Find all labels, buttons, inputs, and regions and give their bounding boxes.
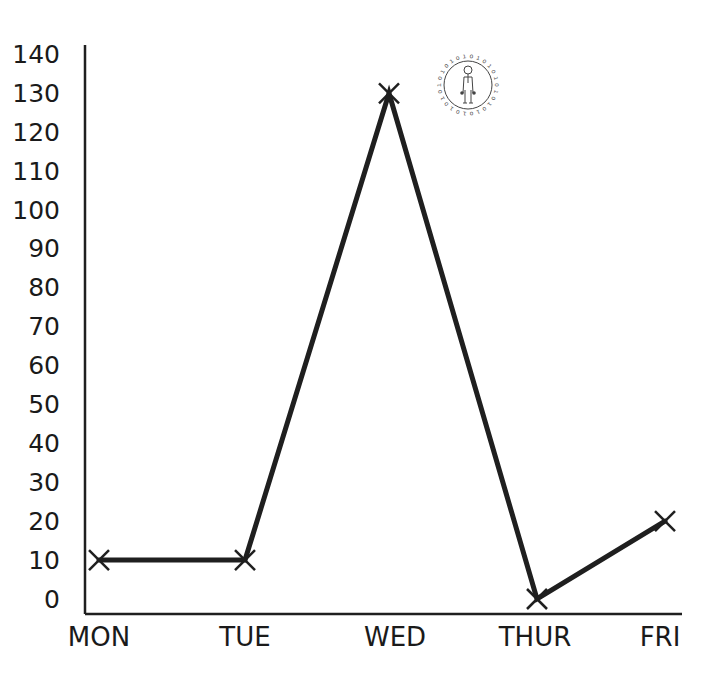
line-chart: 0102030405060708090100110120130140 MONTU…	[0, 0, 717, 691]
svg-text:o: o	[435, 75, 444, 81]
series-line	[99, 93, 665, 599]
svg-text:o: o	[493, 83, 501, 87]
svg-text:o: o	[435, 89, 444, 95]
x-tick-label: WED	[364, 622, 426, 652]
y-tick-label: 80	[28, 273, 60, 302]
svg-text:ı: ı	[475, 53, 482, 62]
svg-text:ı: ı	[475, 108, 482, 117]
y-tick-label: 0	[44, 585, 60, 614]
svg-text:o: o	[489, 68, 498, 75]
svg-text:o: o	[454, 108, 461, 117]
svg-text:o: o	[454, 53, 461, 62]
svg-text:o: o	[469, 52, 474, 60]
svg-text:o: o	[481, 104, 489, 113]
y-tick-label: 120	[12, 118, 60, 147]
svg-text:ı: ı	[435, 83, 443, 87]
svg-text:ı: ı	[492, 89, 501, 95]
svg-text:ı: ı	[462, 52, 467, 60]
svg-text:o: o	[469, 110, 474, 118]
y-tick-label: 130	[12, 79, 60, 108]
x-tick-label: FRI	[640, 622, 681, 652]
y-tick-label: 100	[12, 196, 60, 225]
x-tick-label: MON	[68, 622, 130, 652]
y-axis-labels: 0102030405060708090100110120130140	[12, 40, 60, 614]
x-tick-label: THUR	[498, 622, 572, 652]
y-tick-label: 40	[28, 429, 60, 458]
logo-ring-text: oıoıoıoıoıoıoıoıoıoıoıoıoı	[435, 52, 501, 118]
y-tick-label: 10	[28, 546, 60, 575]
y-tick-label: 140	[12, 40, 60, 69]
svg-text:ı: ı	[462, 110, 467, 118]
y-tick-label: 60	[28, 351, 60, 380]
y-tick-label: 110	[12, 157, 60, 186]
y-tick-label: 70	[28, 312, 60, 341]
x-tick-label: TUE	[218, 622, 270, 652]
svg-text:ı: ı	[492, 75, 501, 81]
data-point-markers	[89, 83, 675, 609]
x-axis-labels: MONTUEWEDTHURFRI	[68, 622, 681, 652]
x-marker-icon	[655, 511, 675, 531]
y-tick-label: 20	[28, 507, 60, 536]
y-tick-label: 30	[28, 468, 60, 497]
y-tick-label: 90	[28, 234, 60, 263]
svg-text:ı: ı	[448, 57, 456, 66]
stick-figure-logo-icon: oıoıoıoıoıoıoıoıoıoıoıoıoı	[435, 52, 501, 118]
svg-text:ı: ı	[438, 95, 447, 102]
y-tick-label: 50	[28, 390, 60, 419]
